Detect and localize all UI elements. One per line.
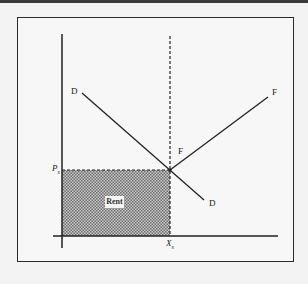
label-demand-bottom: D	[209, 198, 216, 208]
rent-label: Rent	[105, 196, 124, 208]
label-price-ps: Ps	[52, 163, 60, 175]
label-quantity-xs: Xs	[166, 238, 174, 250]
factor-curve	[170, 97, 268, 170]
label-demand-top: D	[71, 86, 78, 96]
rent-diagram-svg	[0, 0, 308, 284]
quantity-subscript: s	[172, 244, 174, 250]
equilibrium-point	[168, 168, 171, 171]
price-subscript: s	[58, 169, 60, 175]
label-factor-mid: F	[178, 146, 183, 156]
label-factor-top: F	[272, 87, 277, 97]
